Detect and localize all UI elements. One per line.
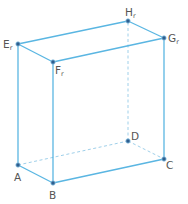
vertex-A [16,163,20,167]
vertex-B [51,181,55,185]
label-E: Er [3,38,13,52]
label-F: Fr [55,64,64,78]
edge-GH [128,21,164,38]
vertex-E [16,42,20,46]
label-H-main: H [125,6,133,18]
label-A: A [14,171,22,183]
vertex-D [126,139,130,143]
label-B: B [49,189,56,201]
edge-HE [18,21,128,44]
vertex-H [126,19,130,23]
edge-AB [18,165,53,183]
label-D: D [131,130,139,142]
vertex-G [162,36,166,40]
edge-AD [18,141,128,165]
label-F-sub: r [61,70,64,78]
cuboid-diagram: A B C D Er Fr Gr Hr [0,0,188,204]
edge-EF [18,44,53,62]
edge-FG [53,38,164,62]
edge-DC [128,141,164,159]
label-H-sub: r [133,12,136,20]
label-G: Gr [168,32,179,46]
label-G-main: G [168,32,176,44]
label-H: Hr [125,6,136,20]
label-E-main: E [3,38,10,50]
edge-BC [53,159,164,183]
label-G-sub: r [176,38,179,46]
label-E-sub: r [10,44,13,52]
label-C: C [166,159,173,171]
